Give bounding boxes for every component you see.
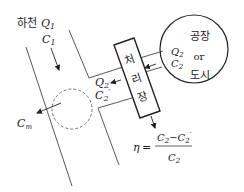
mixing-zone-circle (52, 89, 92, 129)
river-right-bank-upper (69, 30, 123, 78)
river-conc-symbol: C1 (42, 33, 56, 47)
mixed-conc-arrow (37, 103, 61, 113)
river-flow-symbol: Q1 (41, 17, 55, 31)
sludge-arrow (151, 116, 155, 128)
river-flow-arrow (51, 48, 59, 70)
mixed-conc-label: Cm (17, 117, 32, 131)
formula-equals: = (142, 141, 151, 154)
river-treatment-diagram: 하천 Q1 C1 Cm Q2 C2′ 처 리 장 공장 or 도시 Q2 C2 … (0, 0, 244, 192)
source-line-1: 공장 (190, 30, 210, 43)
river-left-bank (26, 47, 72, 186)
inflow-arrow (145, 64, 156, 68)
source-line-3: 도시 (190, 69, 210, 82)
effluent-conc-label: C2′ (95, 87, 111, 103)
source-line-2: or (194, 51, 205, 62)
formula-denominator: C2 (168, 152, 181, 165)
effluent-flow-label: Q2 (95, 76, 109, 90)
river-label: 하천 (17, 16, 37, 30)
source-conc-label: C2 (171, 58, 184, 71)
pipe-lower (145, 67, 162, 72)
effluent-arrow (111, 80, 121, 83)
river-right-bank-lower (98, 98, 132, 165)
formula-lhs: η (133, 141, 140, 154)
formula-numerator: C2−C2′ (157, 131, 192, 145)
